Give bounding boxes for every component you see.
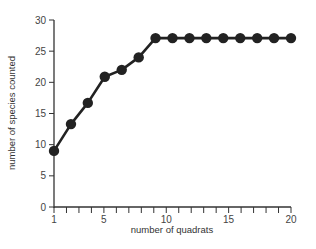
data-point xyxy=(286,33,296,43)
data-point xyxy=(49,146,59,156)
y-tick-label: 15 xyxy=(35,108,47,119)
y-tick-label: 20 xyxy=(35,77,47,88)
plot-area xyxy=(49,33,296,156)
data-point xyxy=(150,33,160,43)
y-tick-label: 10 xyxy=(35,139,47,150)
x-tick-label: 5 xyxy=(101,214,107,225)
x-tick-label: 1 xyxy=(51,214,57,225)
line-chart: 05101520253015101520 number of quadrats … xyxy=(0,0,316,249)
y-tick-label: 5 xyxy=(40,170,46,181)
x-axis-label: number of quadrats xyxy=(131,224,214,235)
x-tick-label: 20 xyxy=(285,214,297,225)
series-line xyxy=(54,38,291,151)
x-tick-label: 15 xyxy=(223,214,235,225)
data-point xyxy=(100,72,110,82)
y-axis-label: number of species counted xyxy=(6,56,17,170)
y-tick-label: 0 xyxy=(40,202,46,213)
y-tick-label: 25 xyxy=(35,46,47,57)
data-point xyxy=(269,33,279,43)
y-tick-label: 30 xyxy=(35,15,47,26)
data-point xyxy=(133,52,143,62)
data-point xyxy=(235,33,245,43)
data-point xyxy=(83,98,93,108)
data-point xyxy=(167,33,177,43)
data-point xyxy=(184,33,194,43)
data-point xyxy=(66,119,76,129)
data-point xyxy=(117,65,127,75)
data-point xyxy=(201,33,211,43)
data-point xyxy=(218,33,228,43)
data-point xyxy=(252,33,262,43)
